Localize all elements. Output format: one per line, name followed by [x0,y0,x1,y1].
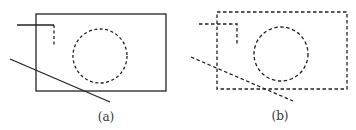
circle-dashed [73,29,127,83]
diagonal-line-solid [10,59,110,102]
panel-b [191,12,347,101]
figure: (a) (b) [0,0,356,130]
diagonal-line-dashed [191,57,293,101]
panel-b-label: (b) [271,109,288,123]
panel-a-label: (a) [98,110,115,124]
polyline-dashed [199,24,237,44]
rectangle-solid [36,14,166,91]
circle-dashed [254,27,308,81]
panel-a [10,14,166,102]
